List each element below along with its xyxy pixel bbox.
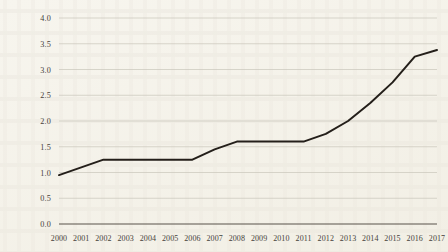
x-tick-label: 2001 [73, 234, 89, 243]
x-tick-label: 2004 [140, 234, 156, 243]
x-tick-label: 2006 [184, 234, 200, 243]
y-tick-label: 2.5 [40, 91, 51, 100]
x-tick-label: 2008 [229, 234, 245, 243]
x-tick-label: 2000 [51, 234, 67, 243]
chart-container: 0.00.51.01.52.02.53.03.54.0 200020012002… [0, 0, 448, 252]
x-tick-label: 2016 [407, 234, 423, 243]
x-tick-label: 2014 [362, 234, 378, 243]
x-tick-label: 2012 [318, 234, 334, 243]
data-series-line [59, 50, 437, 175]
x-tick-label: 2007 [206, 234, 222, 243]
x-tick-label: 2010 [273, 234, 289, 243]
gridlines-group [59, 18, 437, 198]
y-tick-label: 2.0 [40, 117, 51, 126]
y-tick-label: 0.0 [40, 220, 51, 229]
y-tick-label: 3.5 [40, 40, 51, 49]
y-tick-label: 4.0 [40, 14, 51, 23]
x-tick-label: 2009 [251, 234, 267, 243]
x-tick-label: 2015 [384, 234, 400, 243]
x-tick-label: 2011 [296, 234, 312, 243]
y-axis-tick-labels: 0.00.51.01.52.02.53.03.54.0 [40, 14, 51, 229]
x-tick-label: 2013 [340, 234, 356, 243]
y-tick-label: 3.0 [40, 66, 51, 75]
y-tick-label: 0.5 [40, 194, 51, 203]
x-tick-label: 2017 [429, 234, 445, 243]
line-chart-plot: 0.00.51.01.52.02.53.03.54.0 200020012002… [0, 0, 448, 252]
x-axis-tick-labels: 2000200120022003200420052006200720082009… [51, 234, 445, 243]
x-tick-label: 2003 [118, 234, 134, 243]
y-tick-label: 1.0 [40, 169, 51, 178]
x-tick-label: 2002 [95, 234, 111, 243]
y-tick-label: 1.5 [40, 143, 51, 152]
x-tick-label: 2005 [162, 234, 178, 243]
